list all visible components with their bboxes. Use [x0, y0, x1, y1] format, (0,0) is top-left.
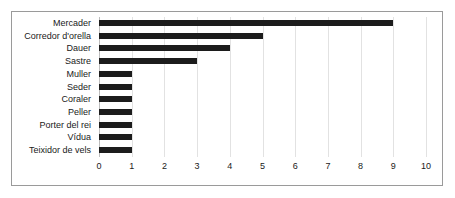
value-axis-labels: 012345678910 — [99, 161, 426, 175]
x-tick-label-1: 1 — [129, 161, 134, 171]
bar-row — [99, 30, 426, 43]
bar — [99, 71, 132, 77]
category-label: Dauer — [12, 42, 95, 55]
category-label: Sastre — [12, 55, 95, 68]
bar — [99, 109, 132, 115]
bar-row — [99, 42, 426, 55]
bar — [99, 147, 132, 153]
category-label: Porter del rei — [12, 119, 95, 132]
bar — [99, 20, 393, 26]
bar-row — [99, 131, 426, 144]
bar-row — [99, 17, 426, 30]
x-tick-label-4: 4 — [227, 161, 232, 171]
x-tick-label-3: 3 — [195, 161, 200, 171]
bar-row — [99, 93, 426, 106]
bar-row — [99, 106, 426, 119]
bar — [99, 122, 132, 128]
bar-row — [99, 81, 426, 94]
x-tick-label-2: 2 — [162, 161, 167, 171]
chart-frame: MercaderCorredor d'orellaDauerSastreMull… — [11, 11, 443, 186]
plot-area — [99, 17, 426, 157]
bar-row — [99, 144, 426, 157]
x-tick-label-0: 0 — [96, 161, 101, 171]
bar — [99, 134, 132, 140]
category-label: Coraler — [12, 93, 95, 106]
category-label: Seder — [12, 81, 95, 94]
bar-row — [99, 68, 426, 81]
bar — [99, 58, 197, 64]
category-label: Corredor d'orella — [12, 30, 95, 43]
category-label: Peller — [12, 106, 95, 119]
bar-row — [99, 119, 426, 132]
bar — [99, 33, 263, 39]
bar-row — [99, 55, 426, 68]
x-tick-label-7: 7 — [325, 161, 330, 171]
category-label: Teixidor de vels — [12, 144, 95, 157]
category-label: Mercader — [12, 17, 95, 30]
gridline-10 — [426, 17, 427, 157]
chart-plot-container: MercaderCorredor d'orellaDauerSastreMull… — [12, 12, 442, 185]
category-label: Vídua — [12, 131, 95, 144]
x-tick-label-10: 10 — [421, 161, 431, 171]
bar — [99, 96, 132, 102]
bar — [99, 84, 132, 90]
bar-series — [99, 17, 426, 157]
bar — [99, 45, 230, 51]
category-axis-labels: MercaderCorredor d'orellaDauerSastreMull… — [12, 17, 95, 157]
x-tick-label-8: 8 — [358, 161, 363, 171]
x-tick-label-6: 6 — [293, 161, 298, 171]
x-tick-label-9: 9 — [391, 161, 396, 171]
x-tick-label-5: 5 — [260, 161, 265, 171]
category-label: Muller — [12, 68, 95, 81]
